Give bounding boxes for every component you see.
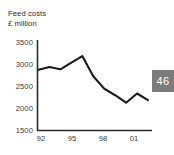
chart-figure: Feed costs £ million 3500 3000 2500 2000… bbox=[0, 0, 174, 155]
chart-canvas bbox=[0, 0, 174, 155]
data-series-line bbox=[39, 56, 149, 103]
plot-area: 3500 3000 2500 2000 1500 92 95 98 01 bbox=[0, 0, 174, 155]
page-number-badge: 46 bbox=[152, 70, 174, 92]
